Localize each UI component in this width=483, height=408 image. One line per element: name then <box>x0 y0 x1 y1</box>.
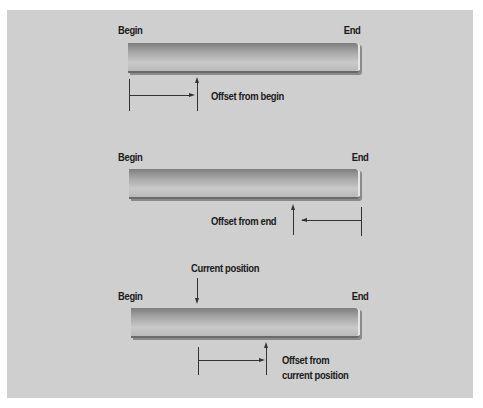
begin-label: Begin <box>118 290 143 303</box>
arrow-left-icon <box>301 218 307 222</box>
current-tick <box>198 347 199 375</box>
offset-label-line2: current position <box>282 369 349 382</box>
offset-arrow-line <box>129 95 191 96</box>
position-tick <box>266 347 267 375</box>
stream-bar <box>128 43 360 73</box>
offset-label: Offset from begin <box>211 90 284 103</box>
end-label: End <box>344 24 361 37</box>
offset-arrow-line <box>302 220 361 221</box>
offset-label-line1: Offset from <box>282 354 329 367</box>
arrow-up-icon <box>291 204 295 210</box>
current-position-line <box>197 278 198 300</box>
position-tick <box>197 82 198 111</box>
end-tick <box>361 207 362 236</box>
begin-label: Begin <box>118 151 143 164</box>
end-label: End <box>352 290 369 303</box>
end-label: End <box>352 151 369 164</box>
arrow-right-icon <box>259 358 265 362</box>
arrow-right-icon <box>189 93 195 97</box>
stream-bar <box>131 308 360 338</box>
position-tick <box>293 209 294 235</box>
offset-arrow-line <box>198 360 261 361</box>
stream-bar <box>129 169 360 199</box>
offset-label: Offset from end <box>211 215 276 228</box>
arrow-up-icon <box>264 342 268 348</box>
begin-label: Begin <box>118 24 143 37</box>
current-position-label: Current position <box>191 262 259 275</box>
arrow-up-icon <box>195 77 199 83</box>
arrow-down-icon <box>195 298 199 304</box>
